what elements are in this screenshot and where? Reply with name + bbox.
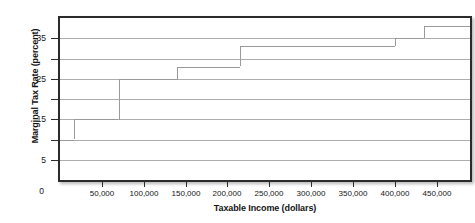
step-tread-35 (395, 38, 424, 39)
y-tick-label-15: 15 (20, 115, 46, 124)
step-tread-38 (424, 26, 470, 27)
step-series-marginal-tax-rate (60, 18, 470, 180)
y-tick-30 (51, 59, 58, 60)
step-tread-33 (240, 46, 395, 47)
y-tick-label-35: 35 (20, 34, 46, 43)
y-tick-25 (51, 79, 58, 80)
x-tick-300000 (311, 182, 312, 187)
x-tick-350000 (353, 182, 354, 187)
origin-label: 0 (30, 186, 44, 196)
y-tick-10 (51, 140, 58, 141)
y-axis-title: Marginal Tax Rate (percent) (28, 6, 42, 166)
step-riser-33-to-35 (395, 38, 396, 46)
tax-rate-chart: Marginal Tax Rate (percent) 5152535 50,0… (0, 0, 475, 223)
x-tick-200000 (227, 182, 228, 187)
y-tick-20 (51, 99, 58, 100)
step-riser-10-to-15 (74, 119, 75, 139)
plot-area (58, 16, 472, 182)
step-tread-15 (74, 119, 118, 120)
x-tick-label-450000: 450,000 (407, 189, 467, 198)
step-tread-25 (119, 79, 178, 80)
x-tick-100000 (144, 182, 145, 187)
y-tick-35 (51, 38, 58, 39)
y-tick-5 (51, 160, 58, 161)
step-tread-10 (60, 140, 74, 141)
x-tick-150000 (186, 182, 187, 187)
y-tick-label-25: 25 (20, 75, 46, 84)
x-tick-450000 (437, 182, 438, 187)
y-tick-15 (51, 119, 58, 120)
step-riser-28-to-33 (240, 46, 241, 66)
step-tread-28 (177, 67, 240, 68)
x-tick-250000 (269, 182, 270, 187)
step-riser-25-to-28 (177, 67, 178, 79)
step-riser-15-to-25 (119, 79, 120, 120)
y-tick-label-5: 5 (20, 156, 46, 165)
x-axis-title: Taxable Income (dollars) (58, 203, 472, 213)
step-riser-35-to-38 (424, 26, 425, 38)
x-tick-400000 (395, 182, 396, 187)
x-tick-50000 (102, 182, 103, 187)
